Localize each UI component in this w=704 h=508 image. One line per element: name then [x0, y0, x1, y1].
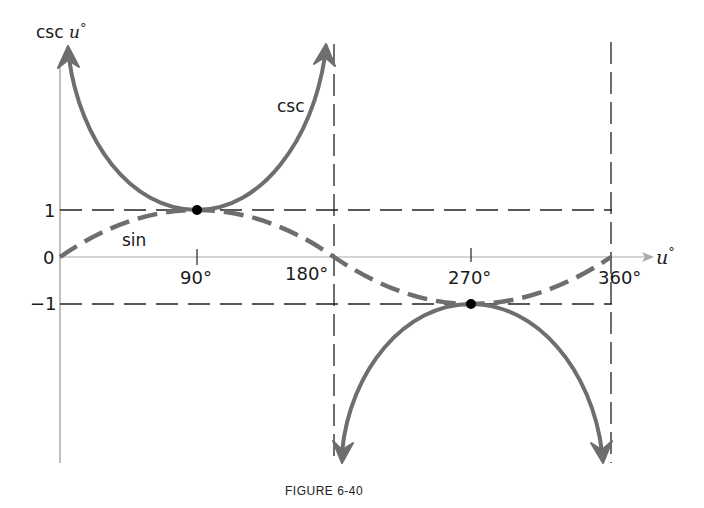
y-axis-title-degree: °: [80, 20, 87, 35]
x-axis-title-degree: °: [668, 244, 675, 259]
y-axis-title-prefix: csc: [36, 22, 69, 42]
y-axis-title-var: u: [69, 22, 80, 42]
y-tick-1: 1: [44, 200, 55, 221]
csc-curve-upper: [69, 56, 325, 210]
x-axis-title-var: u: [656, 246, 668, 268]
x-tick-90: 90°: [180, 267, 212, 288]
sin-curve-label: sin: [122, 230, 146, 250]
csc-curve-lower: [342, 304, 602, 452]
x-tick-270: 270°: [448, 267, 491, 288]
x-tick-180: 180°: [285, 263, 328, 284]
point-270-neg1: [466, 299, 476, 309]
y-tick-neg1: −1: [30, 293, 57, 314]
csc-curve-label: csc: [277, 96, 305, 116]
y-axis-title: csc u°: [36, 20, 86, 42]
x-tick-360: 360°: [598, 267, 641, 288]
y-tick-0: 0: [43, 247, 54, 268]
chart-canvas: [0, 0, 704, 508]
x-axis-title: u°: [656, 244, 675, 268]
point-90-1: [192, 205, 202, 215]
figure-caption: FIGURE 6-40: [285, 484, 363, 498]
